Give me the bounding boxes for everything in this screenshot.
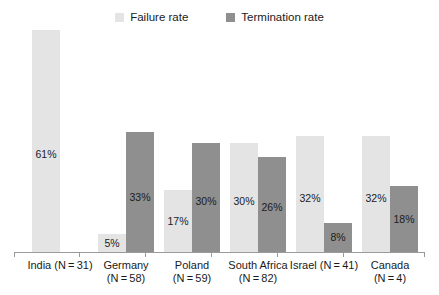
- bar-group: 32%18%: [362, 30, 418, 252]
- legend-label-failure-rate: Failure rate: [130, 12, 188, 24]
- x-axis-tick: [343, 252, 344, 257]
- x-axis-category-label: Canada(N = 4): [345, 259, 435, 285]
- category-name: Canada: [371, 259, 410, 271]
- bar-value-label: 30%: [192, 196, 220, 207]
- bar-value-label: 32%: [362, 193, 390, 204]
- bar-group: 32%8%: [296, 30, 352, 252]
- bar-value-label: 32%: [296, 193, 324, 204]
- legend-swatch-icon: [115, 13, 124, 22]
- chart-legend: Failure rate Termination rate: [0, 12, 439, 24]
- bar-value-label: 26%: [258, 202, 286, 213]
- x-axis-tick: [424, 252, 425, 257]
- x-axis-tick: [145, 252, 146, 257]
- bar[interactable]: [32, 30, 60, 252]
- bar-value-label: 5%: [98, 238, 126, 249]
- category-sample-size: (N = 82): [213, 272, 303, 285]
- bar-group: 30%26%: [230, 30, 286, 252]
- bar-value-label: 61%: [32, 149, 60, 160]
- bar-chart: Failure rate Termination rate 61%5%33%17…: [0, 0, 439, 295]
- bar-group: 61%: [32, 30, 88, 252]
- category-name: Germany: [103, 259, 148, 271]
- bar-group: 17%30%: [164, 30, 220, 252]
- x-axis-tick: [14, 252, 15, 257]
- bar-value-label: 33%: [126, 192, 154, 203]
- x-axis-category-labels: India (N = 31)Germany(N = 58)Poland(N = …: [14, 259, 425, 293]
- legend-label-termination-rate: Termination rate: [241, 12, 323, 24]
- x-axis-tick: [211, 252, 212, 257]
- x-axis-line: [14, 252, 425, 253]
- x-axis-tick: [79, 252, 80, 257]
- x-axis-tick: [277, 252, 278, 257]
- category-name: Poland: [175, 259, 209, 271]
- bar-value-label: 8%: [324, 232, 352, 243]
- bar-value-label: 30%: [230, 196, 258, 207]
- plot-area: 61%5%33%17%30%30%26%32%8%32%18%: [14, 30, 425, 252]
- bar-value-label: 17%: [164, 216, 192, 227]
- bar-group: 5%33%: [98, 30, 154, 252]
- legend-item-termination-rate: Termination rate: [226, 12, 323, 24]
- category-sample-size: (N = 4): [345, 272, 435, 285]
- bar-value-label: 18%: [390, 214, 418, 225]
- legend-swatch-icon: [226, 13, 235, 22]
- legend-item-failure-rate: Failure rate: [115, 12, 188, 24]
